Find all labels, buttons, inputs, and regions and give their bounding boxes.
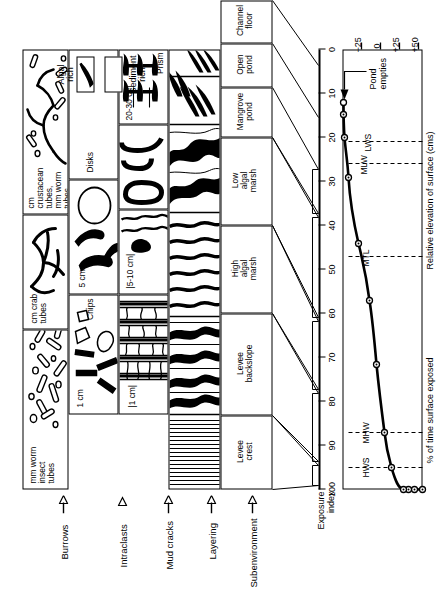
tide-label-mhw: MHW <box>360 422 370 443</box>
elevation-axis-label: Relative elevation of surface (cms) <box>424 131 434 269</box>
pond-empties-arrowhead <box>340 89 348 99</box>
elev-ticklabel-+25: +25 <box>390 28 400 52</box>
tide-label-mtl: MTL <box>360 249 370 266</box>
pond-empties-leader <box>344 71 366 89</box>
exposure-time-axis-label: % of time surface exposed <box>424 357 434 463</box>
figure-root: Subenvironment Layering Mud cracks Intra… <box>0 0 437 589</box>
elev-ticklabel-0: 0 <box>371 24 381 48</box>
tide-label-lws: LWS <box>362 133 372 151</box>
rotated-figure-canvas: Subenvironment Layering Mud cracks Intra… <box>0 0 437 589</box>
pond-empties-annotation: Pond empties <box>368 45 388 89</box>
elev-ticklabel--25: −25 <box>352 28 362 52</box>
tide-label-mlw: MLW <box>358 155 368 174</box>
tide-label-hws: HWS <box>360 457 370 477</box>
elev-ticklabel-+50: +50 <box>409 28 419 52</box>
